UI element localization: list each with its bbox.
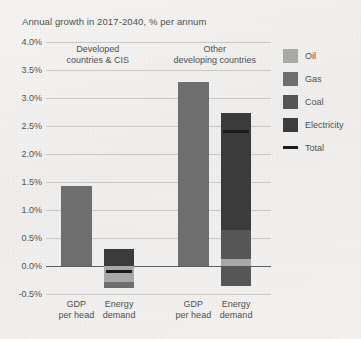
bar-segment: [178, 82, 208, 266]
bar-segment-coal: [104, 282, 134, 288]
legend-item-gas[interactable]: Gas: [283, 67, 359, 90]
x-axis-label-line2: demand: [196, 310, 276, 321]
x-axis-label-1: Energydemand: [79, 299, 159, 321]
y-axis-tick-label: 2.0%: [21, 149, 42, 159]
legend-item-coal[interactable]: Coal: [283, 90, 359, 113]
bar-other-developing-energy-demand[interactable]: [221, 42, 251, 294]
y-axis-tick-label: 0.5%: [21, 233, 42, 243]
legend-line-marker: [283, 146, 298, 149]
gridline: [46, 294, 271, 295]
y-axis-tick-label: 1.0%: [21, 205, 42, 215]
bar-segment-oil: [104, 266, 134, 282]
group-header-other-developing: Otherdeveloping countries: [145, 44, 285, 66]
total-marker-line: [106, 270, 133, 273]
legend-color-swatch: [283, 72, 298, 86]
legend-item-label: Electricity: [305, 120, 344, 130]
bar-segment: [61, 186, 91, 266]
bar-developed-gdp-per-head[interactable]: [61, 42, 91, 294]
bar-segment-electricity: [104, 249, 134, 266]
legend-item-label: Total: [305, 143, 324, 153]
y-axis-tick-label: 3.5%: [21, 65, 42, 75]
x-axis-label-3: Energydemand: [196, 299, 276, 321]
chart-figure: Annual growth in 2017-2040, % per annum …: [0, 0, 361, 339]
legend-color-swatch: [283, 95, 298, 109]
x-axis-label-line1: Energy: [196, 299, 276, 310]
y-axis-tick-label: -0.5%: [18, 289, 42, 299]
bar-segment-coal: [221, 266, 251, 286]
legend-item-oil[interactable]: Oil: [283, 44, 359, 67]
x-axis-label-line2: demand: [79, 310, 159, 321]
chart-title: Annual growth in 2017-2040, % per annum: [22, 16, 207, 27]
bar-segment-gas: [221, 230, 251, 260]
group-header-line1: Other: [145, 44, 285, 55]
bar-other-developing-gdp-per-head[interactable]: [178, 42, 208, 294]
legend-item-label: Coal: [305, 97, 324, 107]
y-axis-tick-label: 3.0%: [21, 93, 42, 103]
chart-legend: OilGasCoalElectricityTotal: [283, 44, 359, 159]
y-axis-tick-label: 1.5%: [21, 177, 42, 187]
legend-color-swatch: [283, 118, 298, 132]
total-marker-line: [223, 130, 250, 133]
legend-color-swatch: [283, 49, 298, 63]
y-axis-tick-label: 2.5%: [21, 121, 42, 131]
legend-item-electricity[interactable]: Electricity: [283, 113, 359, 136]
plot-area: 4.0%3.5%3.0%2.5%2.0%1.5%1.0%0.5%0.0%-0.5…: [46, 42, 271, 294]
y-axis-tick-label: 0.0%: [21, 261, 42, 271]
group-header-line2: developing countries: [145, 55, 285, 66]
bar-developed-energy-demand[interactable]: [104, 42, 134, 294]
legend-item-total[interactable]: Total: [283, 136, 359, 159]
bar-segment-oil: [221, 259, 251, 266]
legend-item-label: Gas: [305, 74, 322, 84]
x-axis-label-line1: Energy: [79, 299, 159, 310]
legend-item-label: Oil: [305, 51, 316, 61]
